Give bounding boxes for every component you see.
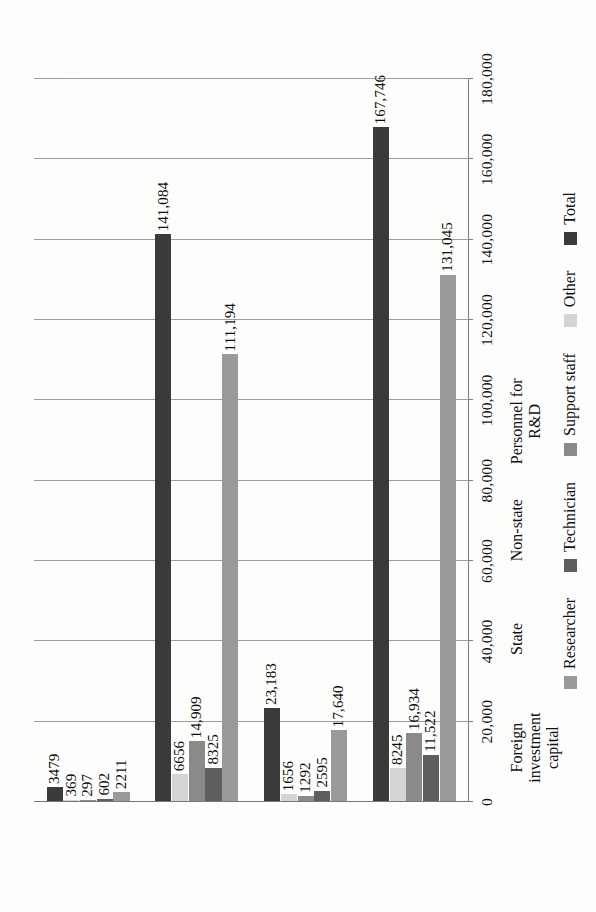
legend-swatch-icon <box>564 676 577 689</box>
category-axis-labels: Foreign investment capitalStateNon-state… <box>508 79 552 802</box>
bar-value-label: 2595 <box>314 757 331 787</box>
legend-label: Support staff <box>561 353 579 436</box>
plot-area: 22116022973693479111,194832514,909665614… <box>34 79 469 802</box>
bar <box>80 800 96 801</box>
bar-value-label: 111,194 <box>222 303 239 351</box>
legend-label: Technician <box>561 482 579 552</box>
axis-tick-mark <box>469 480 473 481</box>
value-axis-tick-label: 100,000 <box>478 374 496 426</box>
bar <box>440 275 456 801</box>
bar-value-label: 8325 <box>205 734 222 764</box>
bar <box>155 234 171 801</box>
gridline <box>34 319 469 320</box>
gridline <box>34 480 469 481</box>
bar <box>172 774 188 801</box>
bar <box>47 787 63 801</box>
bar <box>97 799 113 801</box>
bar <box>406 733 422 801</box>
bar-value-label: 602 <box>96 773 113 796</box>
bar-value-label: 2211 <box>113 759 130 789</box>
rotated-figure-wrapper: 22116022973693479111,194832514,909665614… <box>0 0 596 912</box>
axis-tick-mark <box>469 399 473 400</box>
value-axis-tick-label: 120,000 <box>478 294 496 346</box>
value-axis-tick-label: 140,000 <box>478 214 496 266</box>
bar <box>113 792 129 801</box>
bar-value-label: 297 <box>79 774 96 797</box>
legend-swatch-icon <box>564 443 577 456</box>
chart-legend: ResearcherTechnicianSupport staffOtherTo… <box>556 79 584 802</box>
axis-tick-mark <box>469 801 473 802</box>
legend-item[interactable]: Researcher <box>561 598 579 689</box>
category-axis-label: State <box>508 585 526 694</box>
axis-tick-mark <box>469 560 473 561</box>
bar <box>373 127 389 801</box>
bar-value-label: 11,522 <box>422 710 439 751</box>
legend-item[interactable]: Other <box>561 271 579 327</box>
bar <box>205 768 221 801</box>
bar <box>390 768 406 801</box>
bar-value-label: 369 <box>63 774 80 797</box>
legend-item[interactable]: Support staff <box>561 353 579 456</box>
bar <box>264 708 280 801</box>
legend-swatch-icon <box>564 559 577 572</box>
legend-swatch-icon <box>564 232 577 245</box>
value-axis-tick-label: 60,000 <box>478 539 496 583</box>
gridline <box>34 158 469 159</box>
bar-value-label: 23,183 <box>263 663 280 705</box>
legend-item[interactable]: Technician <box>561 482 579 572</box>
gridline <box>34 640 469 641</box>
bar-value-label: 131,045 <box>439 222 456 271</box>
bar-value-label: 17,640 <box>330 685 347 727</box>
value-axis-tick-label: 20,000 <box>478 700 496 744</box>
bar <box>63 800 79 801</box>
value-axis-tick-label: 40,000 <box>478 619 496 663</box>
bar-value-label: 14,909 <box>188 696 205 738</box>
value-axis-line <box>34 801 469 802</box>
bar-value-label: 167,746 <box>372 75 389 124</box>
axis-tick-mark <box>469 239 473 240</box>
legend-label: Other <box>561 271 579 307</box>
bar <box>331 730 347 801</box>
legend-item[interactable]: Total <box>561 192 579 245</box>
gridline <box>34 721 469 722</box>
bar-value-label: 16,934 <box>406 688 423 730</box>
bar-value-label: 6656 <box>171 741 188 771</box>
gridline <box>34 78 469 79</box>
axis-tick-mark <box>469 319 473 320</box>
bar <box>222 354 238 801</box>
value-axis-tick-label: 0 <box>478 798 496 806</box>
value-axis-tick-label: 160,000 <box>478 133 496 185</box>
bar-value-label: 8245 <box>389 734 406 764</box>
gridline <box>34 239 469 240</box>
bar <box>423 755 439 801</box>
value-axis-tick-label: 80,000 <box>478 459 496 503</box>
bar-value-label: 1292 <box>297 762 314 792</box>
value-axis-tick-labels: 020,00040,00060,00080,000100,000120,0001… <box>478 79 504 802</box>
category-axis-label: Personnel for R&D <box>508 367 544 476</box>
legend-label: Researcher <box>561 598 579 669</box>
bar-chart-figure: 22116022973693479111,194832514,909665614… <box>0 0 596 912</box>
bar <box>314 791 330 801</box>
bar <box>298 796 314 801</box>
category-axis-label: Foreign investment capital <box>508 693 562 802</box>
axis-tick-mark <box>469 78 473 79</box>
gridline <box>34 399 469 400</box>
category-axis-label: Non-state <box>508 476 526 585</box>
bar <box>189 741 205 801</box>
value-axis-tick-label: 180,000 <box>478 53 496 105</box>
axis-tick-mark <box>469 640 473 641</box>
gridline <box>34 560 469 561</box>
axis-tick-mark <box>469 721 473 722</box>
bar-value-label: 141,084 <box>155 182 172 231</box>
bar <box>281 794 297 801</box>
axis-tick-mark <box>469 158 473 159</box>
bar-value-label: 1656 <box>280 761 297 791</box>
category-axis-line <box>468 79 469 802</box>
legend-label: Total <box>561 192 579 225</box>
legend-swatch-icon <box>564 314 577 327</box>
bar-value-label: 3479 <box>46 754 63 784</box>
